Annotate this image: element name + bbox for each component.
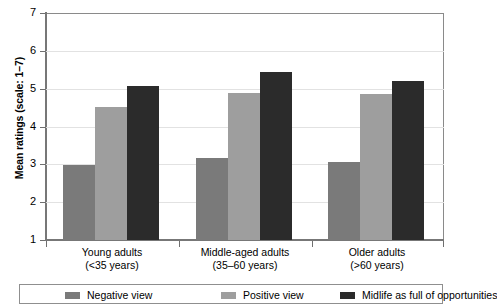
x-axis-category-line2: (>60 years) xyxy=(307,259,447,272)
x-axis-category-line2: (<35 years) xyxy=(42,259,182,272)
bar xyxy=(392,81,424,240)
legend-color-swatch xyxy=(340,292,355,299)
y-axis-tick xyxy=(40,164,45,165)
legend-color-swatch xyxy=(221,292,236,299)
y-axis-tick-label: 3 xyxy=(16,157,36,169)
legend-label: Positive view xyxy=(243,289,304,301)
y-axis-tick-label: 7 xyxy=(16,6,36,18)
legend-color-swatch xyxy=(65,292,80,299)
bar xyxy=(95,107,127,240)
x-axis-category-line1: Young adults xyxy=(82,246,142,258)
x-axis-category-line2: (35–60 years) xyxy=(175,259,315,272)
x-axis-category-label: Young adults(<35 years) xyxy=(42,246,182,272)
legend-label: Midlife as full of opportunities xyxy=(362,289,497,301)
legend-label: Negative view xyxy=(87,289,152,301)
y-axis-tick-label: 1 xyxy=(16,233,36,245)
bar xyxy=(260,72,292,240)
y-axis-tick xyxy=(40,13,45,14)
x-axis-category-label: Older adults(>60 years) xyxy=(307,246,447,272)
y-axis-tick xyxy=(40,127,45,128)
bar xyxy=(360,94,392,240)
legend-item[interactable]: Positive view xyxy=(221,289,304,301)
chart-legend: Negative viewPositive viewMidlife as ful… xyxy=(19,284,443,304)
y-axis-tick-label: 2 xyxy=(16,195,36,207)
y-axis-tick xyxy=(40,202,45,203)
bar xyxy=(328,162,360,240)
x-axis-category-label: Middle-aged adults(35–60 years) xyxy=(175,246,315,272)
gridline xyxy=(46,89,444,90)
y-axis-tick-label: 5 xyxy=(16,82,36,94)
y-axis-title: Mean ratings (scale: 1–7) xyxy=(13,33,25,203)
bar xyxy=(127,86,159,240)
legend-item[interactable]: Midlife as full of opportunities xyxy=(340,289,497,301)
bar xyxy=(196,158,228,240)
y-axis-tick-label: 6 xyxy=(16,44,36,56)
gridline xyxy=(46,51,444,52)
y-axis-tick xyxy=(40,240,45,241)
x-axis-category-line1: Older adults xyxy=(349,246,406,258)
legend-item[interactable]: Negative view xyxy=(65,289,152,301)
y-axis-tick xyxy=(40,89,45,90)
scan-crop-artifact xyxy=(0,0,457,5)
y-axis-tick xyxy=(40,51,45,52)
x-axis-category-line1: Middle-aged adults xyxy=(201,246,290,258)
bar xyxy=(228,93,260,240)
bar xyxy=(63,165,95,240)
y-axis-tick-label: 4 xyxy=(16,120,36,132)
